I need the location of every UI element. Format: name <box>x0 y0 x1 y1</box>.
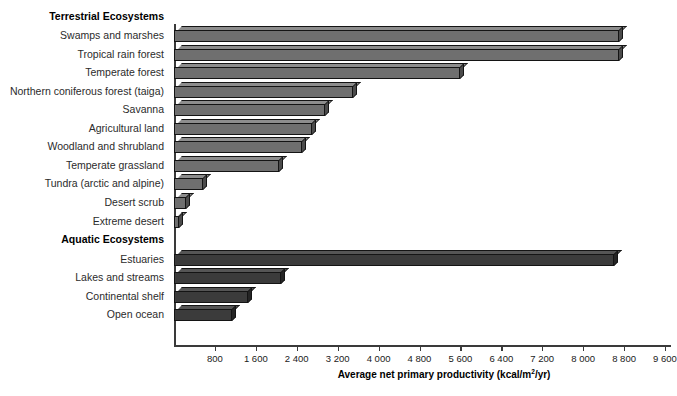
bar <box>174 287 248 299</box>
bar-front-face <box>174 216 179 228</box>
bar-front-face <box>174 197 186 209</box>
bar-front-face <box>174 104 325 116</box>
bar-front-face <box>174 178 203 190</box>
x-axis-title: Average net primary productivity (kcal/m… <box>338 369 551 380</box>
bar-front-face <box>174 160 279 172</box>
x-axis-tick-label: 3 200 <box>326 353 350 364</box>
bar <box>174 305 232 317</box>
bar-side-face <box>312 119 316 135</box>
x-axis-tick <box>624 346 625 351</box>
bar-front-face <box>174 272 281 284</box>
x-axis-tick <box>379 346 380 351</box>
x-axis-tick-label: 8 800 <box>612 353 636 364</box>
bar <box>174 63 460 75</box>
x-axis-tick-label: 1 600 <box>244 353 268 364</box>
x-axis-tick <box>665 346 666 351</box>
x-axis-line <box>174 345 671 347</box>
bar-side-face <box>614 250 618 266</box>
x-axis-tick <box>215 346 216 351</box>
bar-front-face <box>174 291 248 303</box>
x-axis-tick-label: 800 <box>207 353 223 364</box>
bar-side-face <box>619 45 623 61</box>
bar <box>174 156 279 168</box>
bar-side-face <box>279 156 283 172</box>
x-axis-tick-label: 5 600 <box>449 353 473 364</box>
category-label: Lakes and streams <box>75 272 164 283</box>
bar-side-face <box>186 193 190 209</box>
category-label: Desert scrub <box>104 197 164 208</box>
category-label: Tropical rain forest <box>77 49 164 60</box>
bar-side-face <box>302 137 306 153</box>
bar-front-face <box>174 86 353 98</box>
bar <box>174 119 312 131</box>
bar <box>174 137 302 149</box>
category-label: Tundra (arctic and alpine) <box>45 178 164 189</box>
bar <box>174 45 619 57</box>
x-axis-tick <box>583 346 584 351</box>
bar <box>174 82 353 94</box>
bar-front-face <box>174 254 614 266</box>
x-axis-tick-label: 9 600 <box>653 353 677 364</box>
x-axis-tick <box>460 346 461 351</box>
category-label: Northern coniferous forest (taiga) <box>10 86 164 97</box>
plot-area: 8001 6002 4003 2004 0004 8005 6006 4007 … <box>174 0 676 396</box>
x-axis-tick-label: 8 000 <box>571 353 595 364</box>
bar <box>174 174 203 186</box>
bar-side-face <box>353 82 357 98</box>
bar-front-face <box>174 30 619 42</box>
bar-side-face <box>619 26 623 42</box>
category-label: Swamps and marshes <box>60 30 164 41</box>
category-label: Continental shelf <box>86 291 164 302</box>
category-label: Open ocean <box>107 309 164 320</box>
bar-front-face <box>174 67 460 79</box>
bar-side-face <box>281 268 285 284</box>
x-axis-tick <box>338 346 339 351</box>
group-heading-aquatic: Aquatic Ecosystems <box>61 234 164 245</box>
bar <box>174 193 186 205</box>
category-label: Agricultural land <box>89 123 164 134</box>
bar <box>174 250 614 262</box>
category-label: Temperate forest <box>85 67 164 78</box>
x-axis-tick <box>297 346 298 351</box>
bar-side-face <box>232 305 236 321</box>
x-axis-tick <box>256 346 257 351</box>
category-label: Temperate grassland <box>66 160 164 171</box>
x-axis-tick-label: 2 400 <box>285 353 309 364</box>
bar <box>174 26 619 38</box>
bar <box>174 212 179 224</box>
category-label: Savanna <box>123 104 164 115</box>
bar <box>174 100 325 112</box>
group-heading-terrestrial: Terrestrial Ecosystems <box>49 11 164 22</box>
bar-side-face <box>203 174 207 190</box>
x-axis-tick-label: 7 200 <box>530 353 554 364</box>
category-label: Estuaries <box>120 254 164 265</box>
bar-front-face <box>174 123 312 135</box>
x-axis-tick-label: 6 400 <box>489 353 513 364</box>
x-axis-tick-label: 4 800 <box>408 353 432 364</box>
x-axis-tick-label: 4 000 <box>367 353 391 364</box>
bar-front-face <box>174 141 302 153</box>
bar-front-face <box>174 49 619 61</box>
category-label: Extreme desert <box>93 216 164 227</box>
category-label-column: Terrestrial EcosystemsSwamps and marshes… <box>0 0 170 340</box>
category-label: Woodland and shrubland <box>47 141 164 152</box>
bar-side-face <box>179 212 183 228</box>
bar <box>174 268 281 280</box>
bar-front-face <box>174 309 232 321</box>
bar-side-face <box>325 100 329 116</box>
x-axis-tick <box>542 346 543 351</box>
x-axis-tick <box>420 346 421 351</box>
bar-side-face <box>248 287 252 303</box>
x-axis-tick <box>501 346 502 351</box>
bar-side-face <box>460 63 464 79</box>
